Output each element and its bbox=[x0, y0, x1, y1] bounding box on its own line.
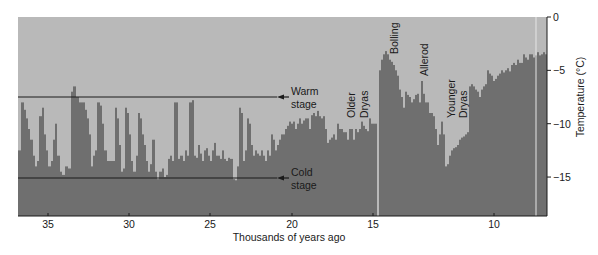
temperature-bar bbox=[505, 70, 507, 216]
temperature-bar bbox=[403, 108, 405, 216]
temperature-bar bbox=[200, 154, 202, 216]
temperature-bar bbox=[245, 150, 247, 216]
temperature-bar bbox=[471, 84, 473, 216]
temperature-bar bbox=[465, 134, 467, 216]
temperature-bar bbox=[481, 90, 483, 216]
temperature-bar bbox=[487, 70, 489, 216]
temperature-bar bbox=[117, 118, 119, 216]
temperature-bar bbox=[365, 129, 367, 216]
temperature-bar bbox=[39, 116, 42, 216]
temperature-bar bbox=[178, 159, 180, 216]
temperature-bar bbox=[495, 79, 497, 216]
temperature-bar bbox=[261, 150, 263, 216]
temperature-bar bbox=[131, 161, 133, 216]
temperature-bar bbox=[247, 118, 249, 216]
temperature-bar bbox=[228, 158, 230, 216]
temperature-bar bbox=[527, 60, 529, 216]
temperature-bar bbox=[327, 143, 329, 216]
temperature-bar bbox=[441, 122, 443, 216]
temperature-bar bbox=[222, 150, 224, 216]
temperature-bar bbox=[42, 108, 44, 216]
temperature-bar bbox=[164, 177, 166, 216]
temperature-bar bbox=[202, 161, 204, 216]
temperature-bar bbox=[235, 180, 237, 216]
temperature-bar bbox=[129, 134, 131, 216]
temperature-bar bbox=[395, 70, 397, 216]
temperature-bar bbox=[389, 60, 391, 216]
temperature-bar bbox=[347, 140, 349, 216]
temperature-bar bbox=[192, 100, 194, 216]
temperature-bar bbox=[523, 54, 525, 216]
y-tick-label: −15 bbox=[553, 171, 571, 183]
temperature-bar bbox=[263, 156, 265, 216]
temperature-bar bbox=[455, 147, 457, 216]
temperature-bar bbox=[109, 161, 112, 216]
temperature-bar bbox=[339, 129, 341, 216]
temperature-bar bbox=[357, 132, 359, 216]
temperature-bar bbox=[226, 161, 228, 216]
temperature-bar bbox=[507, 68, 509, 216]
temperature-bar bbox=[475, 90, 477, 216]
temperature-bar bbox=[419, 102, 421, 216]
temperature-bar bbox=[87, 118, 89, 216]
temperature-bar bbox=[469, 86, 471, 216]
temperature-bar bbox=[429, 113, 431, 216]
temperature-bar bbox=[437, 145, 439, 216]
temperature-bar bbox=[517, 60, 519, 216]
temperature-bar bbox=[397, 76, 399, 216]
temperature-bar bbox=[259, 156, 261, 216]
temperature-bar bbox=[224, 159, 226, 216]
temperature-bar bbox=[407, 95, 409, 216]
temperature-bar bbox=[411, 102, 413, 216]
temperature-bar bbox=[33, 156, 35, 216]
temperature-bar bbox=[427, 102, 429, 216]
temperature-bar bbox=[375, 124, 377, 216]
temperature-bar bbox=[393, 65, 395, 216]
temperature-bar bbox=[325, 129, 327, 216]
temperature-bar bbox=[539, 55, 541, 216]
y-tick-label: −5 bbox=[553, 64, 565, 76]
temperature-bar bbox=[371, 124, 373, 216]
temperature-bar bbox=[421, 81, 423, 216]
x-tick-label: 35 bbox=[42, 218, 54, 230]
temperature-bar bbox=[497, 76, 499, 216]
temperature-bar bbox=[76, 97, 79, 216]
temperature-bar bbox=[467, 132, 469, 216]
temperature-bar bbox=[194, 156, 196, 216]
temperature-bar bbox=[168, 159, 170, 216]
cold-stage-label-line2: stage bbox=[291, 179, 317, 191]
temperature-bar bbox=[180, 156, 183, 216]
temperature-bar bbox=[391, 62, 393, 216]
temperature-bar bbox=[363, 126, 365, 216]
temperature-bar bbox=[381, 60, 383, 216]
temperature-bar bbox=[243, 161, 245, 216]
temperature-bar bbox=[220, 159, 222, 216]
temperature-bar bbox=[283, 134, 285, 216]
temperature-bar bbox=[97, 102, 100, 216]
temperature-bar bbox=[453, 148, 455, 216]
temperature-bar bbox=[463, 137, 465, 217]
temperature-bar bbox=[102, 124, 104, 216]
temperature-bar bbox=[431, 113, 433, 216]
temperature-bar bbox=[405, 92, 407, 216]
temperature-bar bbox=[515, 65, 517, 216]
temperature-bar bbox=[445, 166, 447, 216]
temperature-bar bbox=[409, 97, 411, 216]
x-tick-label: 20 bbox=[286, 218, 298, 230]
temperature-bar bbox=[265, 161, 267, 216]
temperature-bar bbox=[499, 74, 501, 216]
temperature-bar bbox=[313, 113, 315, 216]
temperature-bar bbox=[337, 124, 339, 216]
temperature-bar bbox=[71, 92, 73, 216]
temperature-chart: Warm stage Cold stage Older Dryas Bollin… bbox=[0, 0, 598, 255]
temperature-bar bbox=[89, 134, 91, 216]
temperature-bar bbox=[185, 150, 187, 216]
annotation-younger: Younger bbox=[445, 79, 457, 118]
temperature-bar bbox=[387, 54, 389, 216]
temperature-bar bbox=[423, 94, 425, 216]
temperature-bar bbox=[218, 156, 220, 216]
annotation-dryas-1: Dryas bbox=[358, 91, 370, 118]
y-tick-label: −10 bbox=[553, 118, 571, 130]
temperature-bar bbox=[150, 164, 152, 216]
temperature-bar bbox=[251, 145, 253, 216]
